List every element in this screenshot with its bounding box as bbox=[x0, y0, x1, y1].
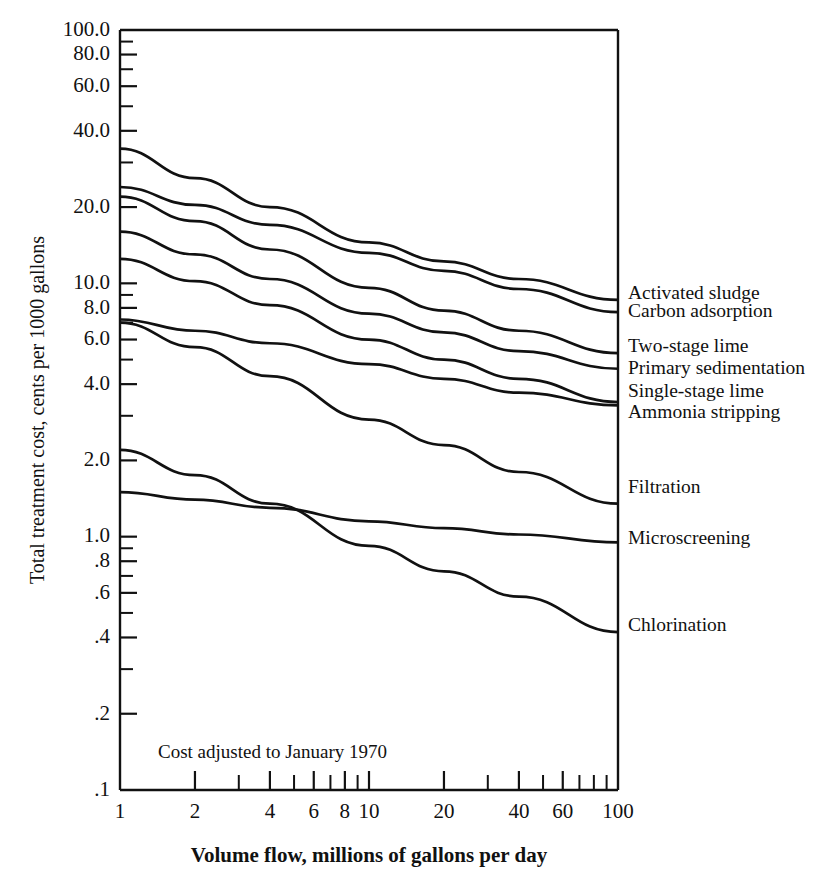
x-axis-title: Volume flow, millions of gallons per day bbox=[191, 843, 548, 867]
x-tick-label: 20 bbox=[433, 799, 454, 823]
annotation-label: Cost adjusted to January 1970 bbox=[158, 741, 387, 762]
y-tick-label: 1.0 bbox=[84, 523, 110, 547]
y-axis-tick-labels: 100.080.060.040.020.010.08.06.04.02.01.0… bbox=[63, 17, 111, 801]
x-tick-label: 6 bbox=[309, 799, 320, 823]
x-tick-label: 4 bbox=[265, 799, 276, 823]
curve-activated-sludge bbox=[120, 149, 618, 300]
curve-filtration bbox=[120, 323, 618, 504]
log-log-chart: 100.080.060.040.020.010.08.06.04.02.01.0… bbox=[0, 0, 837, 876]
x-axis-tick-labels: 1246810204060100 bbox=[115, 799, 634, 823]
y-tick-label: 10.0 bbox=[73, 270, 110, 294]
chart-figure: 100.080.060.040.020.010.08.06.04.02.01.0… bbox=[0, 0, 837, 876]
x-tick-label: 8 bbox=[340, 799, 351, 823]
series-label-primary-sedimentation: Primary sedimentation bbox=[628, 357, 805, 378]
y-tick-label: 80.0 bbox=[73, 41, 110, 65]
data-curves bbox=[120, 149, 618, 632]
y-tick-label: 2.0 bbox=[84, 447, 110, 471]
x-tick-label: 2 bbox=[190, 799, 201, 823]
x-tick-label: 10 bbox=[359, 799, 380, 823]
y-tick-label: .8 bbox=[94, 548, 110, 572]
series-label-filtration: Filtration bbox=[628, 476, 701, 497]
y-tick-label: 4.0 bbox=[84, 371, 110, 395]
x-axis-ticks bbox=[195, 771, 607, 790]
curve-carbon-adsorption bbox=[120, 187, 618, 312]
y-axis-group: 100.080.060.040.020.010.08.06.04.02.01.0… bbox=[63, 17, 137, 801]
x-tick-label: 40 bbox=[508, 799, 529, 823]
x-tick-label: 1 bbox=[115, 799, 126, 823]
series-label-ammonia-stripping: Ammonia stripping bbox=[628, 401, 780, 422]
y-tick-label: .2 bbox=[94, 701, 110, 725]
series-labels: Activated sludgeCarbon adsorptionTwo-sta… bbox=[628, 282, 805, 635]
series-label-two-stage-lime: Two-stage lime bbox=[628, 335, 748, 356]
curve-chlorination bbox=[120, 450, 618, 632]
series-label-carbon-adsorption: Carbon adsorption bbox=[628, 300, 773, 321]
y-tick-label: 60.0 bbox=[73, 73, 110, 97]
series-label-single-stage-lime: Single-stage lime bbox=[628, 380, 764, 401]
x-tick-label: 60 bbox=[552, 799, 573, 823]
y-tick-label: .4 bbox=[94, 624, 110, 648]
y-tick-label: 8.0 bbox=[84, 295, 110, 319]
series-label-microscreening: Microscreening bbox=[628, 527, 751, 548]
curve-microscreening bbox=[120, 492, 618, 542]
x-tick-label: 100 bbox=[602, 799, 634, 823]
x-axis-group: 1246810204060100 bbox=[115, 771, 634, 823]
y-tick-label: .1 bbox=[94, 777, 110, 801]
y-axis-ticks bbox=[120, 42, 137, 714]
y-tick-label: .6 bbox=[94, 580, 110, 604]
series-label-chlorination: Chlorination bbox=[628, 614, 727, 635]
y-tick-label: 40.0 bbox=[73, 118, 110, 142]
y-axis-title: Total treatment cost, cents per 1000 gal… bbox=[26, 236, 49, 584]
y-tick-label: 6.0 bbox=[84, 326, 110, 350]
y-tick-label: 20.0 bbox=[73, 194, 110, 218]
y-tick-label: 100.0 bbox=[63, 17, 110, 41]
